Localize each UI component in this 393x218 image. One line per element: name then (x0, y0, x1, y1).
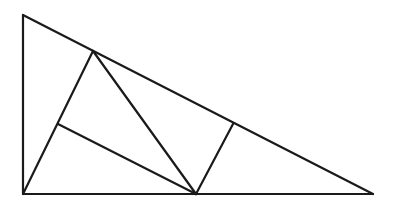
segment-df (93, 51, 196, 194)
segment-ac (23, 15, 373, 194)
geometry-diagram (0, 0, 393, 218)
triangle-figure (0, 0, 393, 218)
segment-ef (58, 124, 196, 194)
segment-bd (23, 51, 93, 194)
segment-fg (196, 124, 233, 194)
